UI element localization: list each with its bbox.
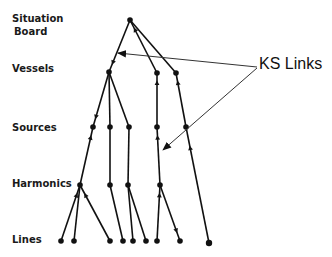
node-l9 [206,240,212,246]
ks-link-pointer-upper [118,53,257,67]
node-s4 [154,124,160,130]
node-sb [127,17,133,23]
edge-h2-l4 [110,185,123,241]
arrowhead-h4-l7 [157,193,162,198]
node-l6 [143,238,149,244]
node-v1 [106,69,112,75]
node-h3 [125,182,131,188]
node-h1 [77,182,83,188]
node-l4 [120,238,126,244]
edge-v1-s3 [109,72,129,127]
edge-s3-h3 [128,127,129,185]
node-v3 [173,70,179,76]
edge-s5-l9 [186,127,209,243]
node-s1 [90,124,96,130]
node-s2 [107,124,113,130]
node-v2 [154,70,160,76]
node-l7 [154,238,160,244]
arrowhead-s4-h4 [155,135,160,140]
node-h4 [157,182,163,188]
node-s3 [126,124,132,130]
node-l3 [107,238,113,244]
node-l2 [71,238,77,244]
node-l1 [58,238,64,244]
arrowhead-v2-s4 [155,80,160,85]
node-l8 [177,238,183,244]
blackboard-tree-diagram [0,0,332,257]
node-l5 [130,238,136,244]
node-h2 [107,182,113,188]
edge-v1-s2 [109,72,110,127]
node-s5 [183,124,189,130]
